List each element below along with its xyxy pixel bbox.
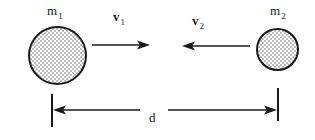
diagram-canvas bbox=[0, 0, 315, 140]
velocity-1-subscript: 1 bbox=[121, 17, 126, 27]
mass-1-body bbox=[29, 27, 86, 84]
velocity-2-symbol: v bbox=[192, 13, 199, 28]
velocity-2-arrow bbox=[182, 42, 250, 51]
mass-2-subscript: 2 bbox=[281, 11, 286, 21]
velocity-2-subscript: 2 bbox=[200, 21, 205, 31]
mass-2-body bbox=[257, 29, 298, 70]
velocity-1-label: v1 bbox=[113, 10, 124, 23]
mass-1-label: m1 bbox=[47, 4, 62, 17]
distance-label: d bbox=[149, 111, 156, 124]
distance-dimension-line bbox=[52, 88, 278, 127]
mass-2-symbol: m bbox=[270, 3, 280, 18]
mass-1-symbol: m bbox=[47, 3, 57, 18]
velocity-1-symbol: v bbox=[113, 9, 120, 24]
velocity-2-label: v2 bbox=[192, 14, 203, 27]
collision-diagram: m1 m2 v1 v2 d bbox=[0, 0, 315, 140]
velocity-1-arrow bbox=[92, 41, 150, 50]
mass-2-label: m2 bbox=[270, 4, 285, 17]
mass-1-subscript: 1 bbox=[58, 11, 63, 21]
